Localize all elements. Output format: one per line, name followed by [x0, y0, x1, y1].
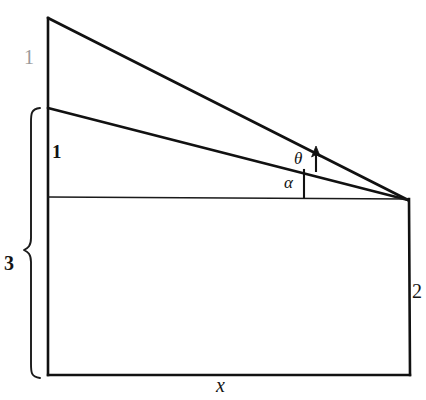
- label-right-side: 2: [412, 281, 422, 301]
- upper-hypotenuse-line: [48, 18, 408, 200]
- label-brace-total: 3: [4, 253, 14, 273]
- label-middle-segment: 1: [52, 142, 62, 161]
- angle-baseline: [48, 197, 409, 199]
- label-base: x: [216, 375, 225, 395]
- label-angle-alpha: α: [284, 174, 293, 191]
- label-angle-theta: θ: [294, 150, 302, 167]
- middle-hypotenuse-line: [48, 108, 408, 200]
- brace-total-height: [24, 108, 40, 378]
- geometry-diagram: 1 1 3 2 x θ α: [0, 0, 426, 400]
- label-top-segment: 1: [24, 47, 34, 67]
- figure-svg: [0, 0, 426, 400]
- rectangle-right-edge: [409, 199, 410, 375]
